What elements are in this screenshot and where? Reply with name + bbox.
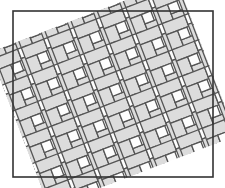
basketweave-tiling-figure (0, 0, 225, 188)
figure-root (0, 0, 225, 188)
